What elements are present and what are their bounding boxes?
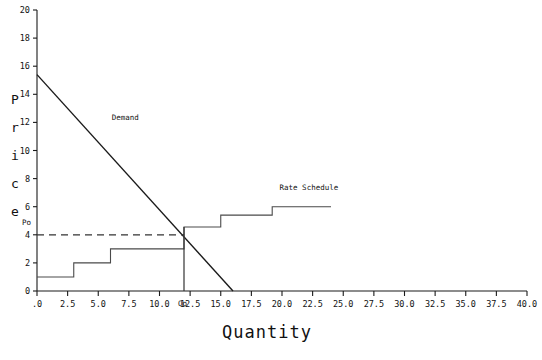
y-tick-label-20: 20 [8,5,30,15]
x-tick-label-20: 20.0 [265,299,299,309]
y-tick-label-4: 4 [8,230,30,240]
x-tick-label-15: 15.0 [204,299,238,309]
x-tick-label-0: .0 [20,299,54,309]
x-tick-label-27.5: 27.5 [357,299,391,309]
y-tick-label-10: 10 [8,146,30,156]
x-tick-label-17.5: 17.5 [234,299,268,309]
rate-schedule-label: Rate Schedule [280,183,339,192]
y-tick-label-12: 12 [8,117,30,127]
y-tick-label-14: 14 [8,89,30,99]
series-demand [37,75,233,291]
po-label: Po [22,218,31,227]
y-tick-label-2: 2 [8,258,30,268]
x-tick-label-7.5: 7.5 [112,299,146,309]
y-tick-label-6: 6 [8,202,30,212]
x-tick-label-35: 35.0 [449,299,483,309]
x-tick-label-37.5: 37.5 [479,299,513,309]
y-tick-label-0: 0 [8,286,30,296]
x-tick-label-32.5: 32.5 [418,299,452,309]
y-tick-label-16: 16 [8,61,30,71]
x-tick-label-25: 25.0 [326,299,360,309]
x-tick-label-22.5: 22.5 [296,299,330,309]
x-tick-label-30: 30.0 [388,299,422,309]
x-tick-label-40: 40.0 [510,299,542,309]
x-tick-label-10: 10.0 [143,299,177,309]
y-tick-label-8: 8 [8,174,30,184]
qo-label: Qo [178,299,187,308]
x-tick-label-5: 5.0 [81,299,115,309]
demand-label: Demand [112,113,139,122]
x-tick-label-2.5: 2.5 [51,299,85,309]
x-axis-title: Quantity [0,322,534,342]
y-tick-label-18: 18 [8,33,30,43]
